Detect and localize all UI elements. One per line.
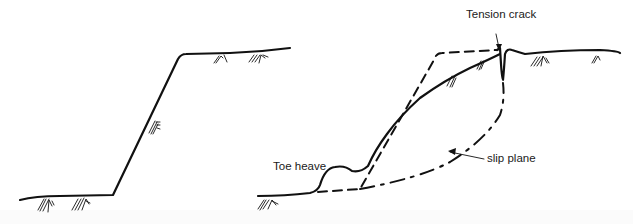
- grass-tuft-icon: [38, 199, 54, 212]
- failed-slope-surface: [258, 54, 500, 196]
- grass-tuft-icon: [447, 76, 456, 87]
- left-ground-profile: [20, 48, 290, 200]
- slip-plane-label: slip plane: [487, 152, 536, 164]
- grass-tuft-icon: [531, 56, 549, 66]
- tension-crack: [497, 48, 620, 80]
- grass-tuft-icon: [592, 56, 600, 63]
- slip-plane-curve: [360, 83, 504, 189]
- grass-tuft-icon: [149, 121, 160, 134]
- grass-tuft-icon: [214, 55, 227, 63]
- grass-tuft-icon: [249, 55, 268, 63]
- left-vegetation-icons: [38, 55, 268, 212]
- slip-plane-arrowhead-icon: [448, 148, 456, 155]
- toe-heave-label: Toe heave: [273, 160, 326, 172]
- diagram-drawing: [0, 0, 633, 224]
- slope-failure-diagram: Tension crack Toe heave slip plane: [0, 0, 633, 224]
- original-slope-profile-dashed: [318, 50, 497, 192]
- grass-tuft-icon: [258, 200, 278, 210]
- tension-crack-label: Tension crack: [466, 8, 536, 20]
- grass-tuft-icon: [72, 198, 90, 210]
- right-vegetation-icons: [258, 56, 600, 210]
